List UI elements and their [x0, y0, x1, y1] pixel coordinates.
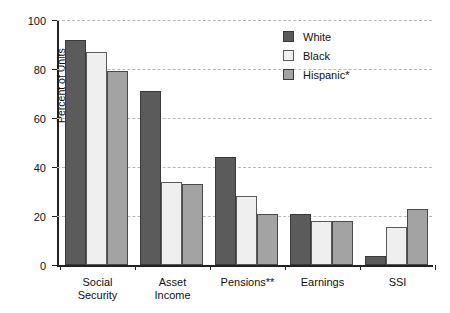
chart-title-cropped — [70, 0, 370, 3]
x-axis-category-line: Asset — [130, 276, 215, 289]
x-axis-category-line: Security — [55, 289, 140, 302]
y-axis-tick-label: 100 — [28, 15, 46, 27]
legend-item-white: White — [283, 28, 433, 45]
bar — [161, 182, 182, 265]
legend-swatch-white-icon — [283, 31, 294, 42]
legend-swatch-black-icon — [283, 50, 294, 61]
bar-chart: Percent of Units 020406080100 White Blac… — [0, 0, 450, 313]
x-axis-category-line: Earnings — [280, 276, 365, 289]
x-axis-category-label: SSI — [355, 276, 440, 289]
bar — [65, 40, 86, 265]
bar — [257, 214, 278, 265]
x-axis-category-label: Earnings — [280, 276, 365, 289]
bar — [290, 214, 311, 265]
legend-label-black: Black — [303, 50, 330, 62]
y-axis-tick-label: 0 — [40, 260, 46, 272]
x-axis-category-line: Income — [130, 289, 215, 302]
x-axis-category-line: Social — [55, 276, 140, 289]
x-axis-tick — [285, 265, 286, 270]
legend-label-white: White — [303, 31, 331, 43]
bar — [332, 221, 353, 265]
bar-group — [140, 20, 205, 265]
x-axis-category-label: AssetIncome — [130, 276, 215, 302]
legend-swatch-hispanic-icon — [283, 69, 294, 80]
legend-item-hispanic: Hispanic* — [283, 66, 433, 83]
y-axis-tick-label: 80 — [34, 64, 46, 76]
bar — [107, 71, 128, 265]
y-axis-tick: 0 — [52, 265, 57, 266]
bar-group — [215, 20, 280, 265]
bar-group — [65, 20, 130, 265]
x-axis-category-label: Pensions** — [205, 276, 290, 289]
bar — [140, 91, 161, 265]
x-axis-category-line: Pensions** — [205, 276, 290, 289]
y-axis-tick-label: 20 — [34, 211, 46, 223]
bar — [215, 157, 236, 265]
bar — [386, 227, 407, 265]
bar — [86, 52, 107, 265]
legend: White Black Hispanic* — [283, 28, 433, 85]
x-axis-tick — [210, 265, 211, 270]
x-axis-category-label: SocialSecurity — [55, 276, 140, 302]
legend-item-black: Black — [283, 47, 433, 64]
bar — [311, 221, 332, 265]
bar — [182, 184, 203, 265]
x-axis-line — [57, 265, 433, 267]
x-axis-tick — [360, 265, 361, 270]
bar — [365, 256, 386, 265]
y-axis-tick-label: 40 — [34, 162, 46, 174]
bar — [407, 209, 428, 265]
bar — [236, 196, 257, 265]
legend-label-hispanic: Hispanic* — [303, 69, 349, 81]
y-axis-tick-label: 60 — [34, 113, 46, 125]
x-axis-tick — [60, 265, 61, 270]
x-axis-category-line: SSI — [355, 276, 440, 289]
x-axis-tick — [135, 265, 136, 270]
x-axis-tick — [435, 265, 436, 270]
